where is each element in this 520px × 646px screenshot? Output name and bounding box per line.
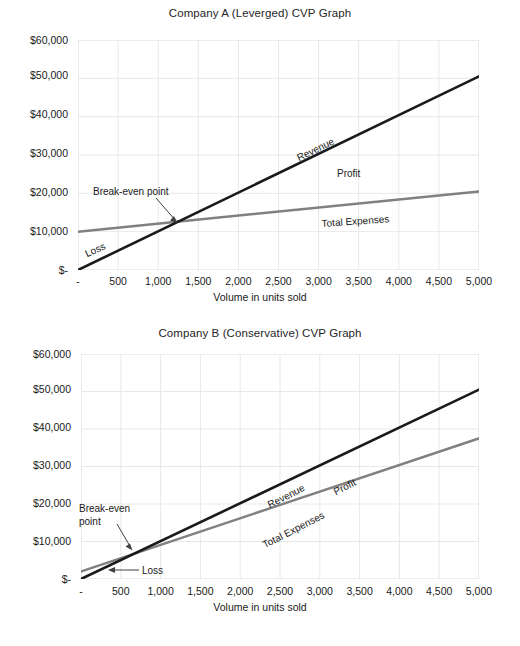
chart-b-xtick-4500: 4,500 <box>426 585 452 597</box>
chart-a-annot-breakeven: Break-even point <box>93 186 169 198</box>
chart-b-plot-area <box>81 354 479 579</box>
chart-company-a: Company A (Leverged) CVP Graph $- $10,00… <box>0 0 520 323</box>
chart-b-ytick-20000: $20,000 <box>0 497 71 509</box>
chart-b-ytick-40000: $40,000 <box>0 421 71 433</box>
chart-a-xtick-4000: 4,000 <box>386 275 412 287</box>
chart-a-xaxis-title: Volume in units sold <box>0 291 520 303</box>
chart-a-ytick-50000: $50,000 <box>0 69 68 81</box>
chart-a-xtick-4500: 4,500 <box>426 275 452 287</box>
chart-b-annot-loss: Loss <box>142 565 163 577</box>
chart-a-xtick-3500: 3,500 <box>346 275 372 287</box>
chart-a-ytick-60000: $60,000 <box>0 34 68 46</box>
chart-a-ytick-0: $- <box>0 264 68 276</box>
chart-a-xtick-1000: 1,000 <box>145 275 171 287</box>
chart-a-ytick-40000: $40,000 <box>0 108 68 120</box>
chart-b-xtick-0: - <box>79 585 83 597</box>
chart-a-title: Company A (Leverged) CVP Graph <box>0 7 520 19</box>
chart-a-xtick-2500: 2,500 <box>265 275 291 287</box>
chart-b-ytick-60000: $60,000 <box>0 348 71 360</box>
chart-b-annot-breakeven-line1: Break-even <box>79 503 130 515</box>
chart-b-ytick-30000: $30,000 <box>0 459 71 471</box>
chart-b-xaxis-title: Volume in units sold <box>0 601 520 613</box>
chart-a-xtick-1500: 1,500 <box>185 275 211 287</box>
chart-a-xtick-0: - <box>76 275 80 287</box>
chart-b-ytick-0: $- <box>0 573 71 585</box>
chart-b-xtick-500: 500 <box>112 585 130 597</box>
chart-b-xtick-2000: 2,000 <box>227 585 253 597</box>
chart-b-title: Company B (Conservative) CVP Graph <box>0 327 520 339</box>
chart-b-xtick-3000: 3,000 <box>307 585 333 597</box>
chart-a-annot-profit: Profit <box>337 168 360 180</box>
chart-company-b: Company B (Conservative) CVP Graph $- $1… <box>0 323 520 646</box>
chart-a-xtick-3000: 3,000 <box>305 275 331 287</box>
chart-b-svg <box>81 354 479 579</box>
chart-b-xtick-5000: 5,000 <box>466 585 492 597</box>
chart-b-annot-breakeven-line2: point <box>79 516 101 528</box>
chart-b-xtick-1500: 1,500 <box>187 585 213 597</box>
chart-a-svg <box>78 40 479 270</box>
chart-a-ytick-20000: $20,000 <box>0 186 68 198</box>
chart-b-xtick-2500: 2,500 <box>267 585 293 597</box>
chart-a-xtick-2000: 2,000 <box>225 275 251 287</box>
chart-b-xtick-4000: 4,000 <box>386 585 412 597</box>
chart-a-ytick-30000: $30,000 <box>0 147 68 159</box>
chart-a-xtick-500: 500 <box>109 275 127 287</box>
chart-b-ytick-50000: $50,000 <box>0 383 71 395</box>
chart-a-xtick-5000: 5,000 <box>466 275 492 287</box>
chart-a-plot-area <box>78 40 479 270</box>
chart-a-ytick-10000: $10,000 <box>0 225 68 237</box>
chart-b-xtick-1000: 1,000 <box>147 585 173 597</box>
chart-b-ytick-10000: $10,000 <box>0 535 71 547</box>
chart-b-xtick-3500: 3,500 <box>346 585 372 597</box>
